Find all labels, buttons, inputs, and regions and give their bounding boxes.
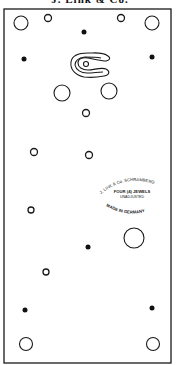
pin-dot <box>150 306 155 311</box>
hairspring-slot <box>71 53 110 78</box>
stamp-jewels: FOUR (4) JEWELS <box>114 189 151 194</box>
hole-bottom-right <box>147 338 160 351</box>
small-hole <box>83 110 90 117</box>
pin-dot <box>23 308 28 313</box>
hole-top-left <box>14 16 28 30</box>
hole-large-lower-right <box>124 228 144 248</box>
hole-left-mid <box>54 85 70 101</box>
movement-plate-diagram: J. LINK & Co. SCHRAMBERG FOUR (4) JEWELS… <box>0 0 180 365</box>
maker-stamp: J. LINK & Co. SCHRAMBERG FOUR (4) JEWELS… <box>99 177 156 215</box>
small-hole <box>31 149 38 156</box>
hole-top-right <box>145 16 159 30</box>
small-hole <box>118 15 125 22</box>
slot-center-hole <box>84 62 89 67</box>
small-hole <box>43 269 49 275</box>
small-hole <box>45 15 52 22</box>
small-hole <box>86 152 93 159</box>
pins <box>22 30 155 313</box>
pin-dot <box>82 30 87 35</box>
small-holes <box>28 15 125 276</box>
stamp-unadjusted: UNADJUSTED <box>120 195 145 199</box>
pin-dot <box>22 57 27 62</box>
hole-bottom-left <box>20 338 33 351</box>
pin-dot <box>150 55 155 60</box>
hole-right-mid <box>101 83 117 99</box>
pin-dot <box>86 245 91 250</box>
stamp-arc-bottom: MADE IN GERMANY <box>106 203 146 215</box>
small-hole <box>28 207 34 213</box>
